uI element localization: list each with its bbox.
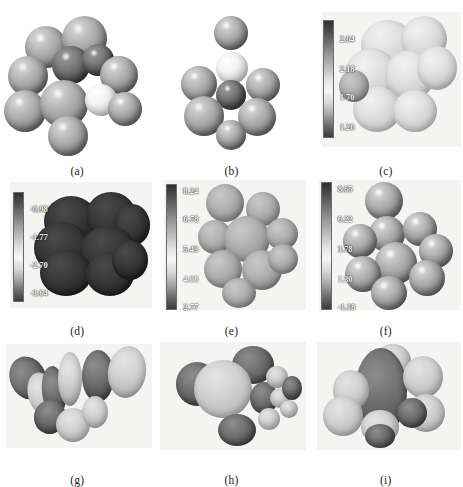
panel-f-canvas: 8.65 6.22 3.78 1.30 -1.18 bbox=[309, 178, 463, 312]
panel-d-canvas: -0.98 -1.77 -2.70 -3.64 bbox=[0, 178, 154, 312]
scale-tick: -1.77 bbox=[30, 232, 48, 242]
color-scale-bar bbox=[13, 192, 24, 302]
color-scale-labels: 8.65 6.22 3.78 1.30 -1.18 bbox=[338, 182, 384, 310]
atom-sphere bbox=[214, 16, 248, 50]
panel-c: 2.64 2.18 1.70 1.26 (c) bbox=[309, 8, 463, 183]
panel-h: (h) bbox=[154, 338, 308, 487]
scale-tick: 1.30 bbox=[338, 274, 353, 284]
orbital-lobe bbox=[397, 398, 427, 428]
panel-i-canvas bbox=[309, 338, 463, 461]
color-scale-bar bbox=[321, 182, 332, 310]
surface-blob bbox=[393, 90, 437, 132]
panel-f: 8.65 6.22 3.78 1.30 -1.18 (f) bbox=[309, 178, 463, 338]
atom-sphere bbox=[4, 90, 46, 132]
atom-sphere bbox=[216, 120, 246, 150]
panel-caption: (i) bbox=[309, 474, 463, 486]
scale-tick: 1.26 bbox=[340, 122, 355, 132]
panel-e-canvas: 8.24 6.78 5.43 4.08 2.77 bbox=[154, 178, 308, 312]
scale-tick: 3.78 bbox=[338, 244, 353, 254]
scale-tick: 8.24 bbox=[183, 186, 198, 196]
orbital-lobe bbox=[58, 352, 82, 406]
panel-a-canvas bbox=[0, 8, 154, 157]
panel-caption: (b) bbox=[154, 165, 308, 177]
figure-row-1: (a) (b) bbox=[0, 8, 463, 183]
figure-row-3: (g) (h) bbox=[0, 338, 463, 487]
orbital-lobe bbox=[365, 424, 395, 448]
orbital-lobe bbox=[323, 396, 363, 436]
panel-caption: (e) bbox=[154, 325, 308, 337]
scale-tick: -3.64 bbox=[30, 288, 48, 298]
orbital-lobe bbox=[403, 356, 443, 398]
scale-tick: 2.77 bbox=[183, 302, 198, 312]
scale-tick: -1.18 bbox=[338, 302, 356, 312]
scale-tick: 8.65 bbox=[338, 184, 353, 194]
panel-g: (g) bbox=[0, 338, 154, 487]
atom-sphere bbox=[108, 92, 142, 126]
panel-c-canvas: 2.64 2.18 1.70 1.26 bbox=[309, 8, 463, 157]
color-scale-bar bbox=[323, 20, 334, 138]
atom-sphere bbox=[48, 116, 88, 156]
color-scale-labels: -0.98 -1.77 -2.70 -3.64 bbox=[30, 192, 76, 302]
panel-caption: (c) bbox=[309, 165, 463, 177]
color-scale-bar bbox=[166, 184, 177, 310]
panel-e: 8.24 6.78 5.43 4.08 2.77 (e) bbox=[154, 178, 308, 338]
panel-caption: (h) bbox=[154, 474, 308, 486]
scale-tick: 5.43 bbox=[183, 244, 198, 254]
panel-i: (i) bbox=[309, 338, 463, 487]
scale-tick: 2.64 bbox=[340, 34, 355, 44]
panel-b-canvas bbox=[154, 8, 308, 157]
panel-caption: (d) bbox=[0, 325, 154, 337]
surface-blob bbox=[417, 46, 457, 90]
scale-tick: -0.98 bbox=[30, 204, 48, 214]
panel-caption: (f) bbox=[309, 325, 463, 337]
scale-tick: 6.22 bbox=[338, 214, 353, 224]
panel-caption: (a) bbox=[0, 165, 154, 177]
atom-sphere bbox=[409, 260, 445, 296]
scale-tick: 2.18 bbox=[340, 64, 355, 74]
figure-row-2: -0.98 -1.77 -2.70 -3.64 (d) bbox=[0, 178, 463, 338]
scale-tick: -2.70 bbox=[30, 260, 48, 270]
scale-tick: 4.08 bbox=[183, 274, 198, 284]
panel-a: (a) bbox=[0, 8, 154, 183]
panel-caption: (g) bbox=[0, 474, 154, 486]
orbital-lobe bbox=[82, 396, 108, 428]
panel-b: (b) bbox=[154, 8, 308, 183]
panel-d: -0.98 -1.77 -2.70 -3.64 (d) bbox=[0, 178, 154, 338]
atom-sphere bbox=[246, 68, 280, 102]
scale-tick: 6.78 bbox=[183, 214, 198, 224]
color-scale-labels: 2.64 2.18 1.70 1.26 bbox=[340, 20, 386, 138]
panel-g-canvas bbox=[0, 338, 154, 461]
orbital-lobe bbox=[194, 360, 252, 418]
surface-blob bbox=[112, 240, 148, 280]
color-scale-labels: 8.24 6.78 5.43 4.08 2.77 bbox=[183, 184, 229, 310]
scale-tick: 1.70 bbox=[340, 92, 355, 102]
panel-h-canvas bbox=[154, 338, 308, 461]
figure-container: (a) (b) bbox=[0, 0, 463, 487]
